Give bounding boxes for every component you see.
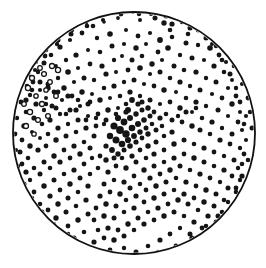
particle-dot (97, 97, 102, 102)
open-particle-dot (30, 76, 35, 81)
particle-dot (122, 42, 126, 46)
particle-dot (127, 143, 133, 149)
particle-dot (203, 187, 208, 192)
particle-dot (184, 41, 189, 46)
particle-dot (125, 221, 130, 226)
particle-dot (164, 180, 169, 185)
particle-dot (236, 120, 241, 125)
particle-dot (208, 132, 213, 137)
particle-dot (230, 78, 234, 82)
particle-dot (196, 208, 201, 213)
open-particle-dot (54, 94, 59, 99)
particle-dot (172, 64, 177, 69)
particle-dot (86, 212, 91, 217)
particle-dot (152, 218, 157, 223)
particle-dot (162, 148, 167, 153)
particle-dot (230, 174, 235, 179)
particle-dot (82, 230, 87, 235)
particle-dot (74, 130, 79, 135)
particle-dot (82, 76, 87, 81)
particle-dot (220, 96, 225, 101)
particle-dot (48, 166, 53, 171)
particle-dot (38, 80, 43, 85)
particle-dot (238, 100, 243, 105)
particle-dot (23, 169, 28, 174)
particle-dot (148, 98, 153, 103)
particle-dot (188, 84, 192, 88)
open-particle-dot (25, 85, 30, 90)
particle-dot (90, 156, 94, 160)
particle-dot (152, 164, 157, 169)
particle-dot (54, 106, 59, 111)
particle-dot (177, 79, 182, 84)
particle-dot (105, 107, 110, 112)
particle-dot (142, 82, 146, 86)
particle-dot (42, 61, 47, 66)
particle-dot (234, 186, 239, 191)
particle-dot (230, 132, 235, 137)
particle-dot (120, 54, 124, 58)
particle-dot (120, 156, 125, 161)
particle-dot (124, 28, 128, 32)
particle-dot (161, 213, 166, 218)
particle-dot (125, 137, 131, 143)
particle-dot (176, 114, 180, 118)
particle-dot (44, 96, 48, 100)
particle-dot (102, 122, 106, 126)
particle-dot (80, 31, 85, 36)
particle-dot (144, 126, 149, 131)
particle-dot (41, 183, 46, 188)
particle-dot (131, 205, 136, 210)
particle-dot (38, 88, 42, 92)
particle-dot (127, 89, 132, 94)
open-particle-dot (34, 94, 38, 98)
particle-dot (98, 154, 103, 159)
particle-dot (220, 58, 225, 63)
particle-dot (162, 192, 167, 197)
particle-dot (83, 197, 88, 202)
particle-dot (236, 166, 240, 170)
particle-dot (157, 37, 163, 43)
particle-dot (226, 86, 230, 90)
particle-dot (103, 71, 108, 76)
particle-dot (97, 193, 102, 198)
particle-dot (85, 24, 90, 29)
particle-dot (40, 122, 45, 127)
particle-dot (110, 44, 115, 49)
particle-dot (146, 210, 151, 215)
particle-dot (217, 53, 222, 58)
figure-root (0, 0, 266, 268)
open-particle-dot (22, 102, 27, 107)
particle-dot (123, 165, 128, 170)
particle-dot (90, 92, 94, 96)
particle-dot (190, 110, 194, 114)
particle-dot (33, 68, 37, 72)
particle-dot (26, 156, 31, 161)
particle-dot (111, 237, 116, 242)
particle-dot (154, 128, 159, 133)
particle-dot (129, 125, 136, 132)
particle-dot (64, 58, 68, 62)
particle-dot (160, 58, 164, 62)
open-particle-dot (40, 102, 45, 107)
particle-dot (220, 126, 224, 130)
particle-dot (238, 146, 242, 150)
particle-dot (86, 48, 90, 52)
particle-dot (197, 171, 202, 176)
particle-dot (46, 208, 51, 213)
particle-dot (198, 128, 203, 133)
particle-dot (201, 199, 206, 204)
particle-dot (191, 155, 196, 160)
particle-dot (169, 129, 174, 134)
particle-dot (192, 142, 197, 147)
particle-dot (123, 109, 128, 114)
particle-dot (232, 158, 237, 163)
particle-dot (136, 34, 141, 39)
particle-dot (222, 198, 227, 203)
particle-dot (182, 68, 187, 73)
particle-dot (172, 188, 177, 193)
particle-dot (131, 133, 137, 139)
open-particle-dot (42, 72, 47, 77)
particle-dot (214, 80, 219, 85)
particle-dot (228, 142, 233, 147)
